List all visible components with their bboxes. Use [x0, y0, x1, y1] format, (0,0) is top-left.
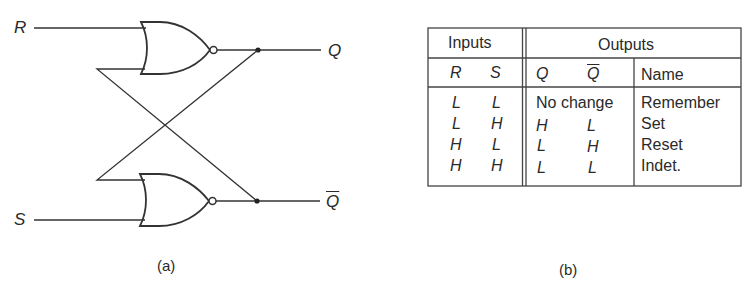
table-header-inputs: Inputs [448, 35, 492, 51]
table-row-1-q: No change [536, 95, 613, 111]
table-col-r: R [450, 65, 462, 81]
table-row-3-s: L [492, 137, 501, 153]
table-row-4-r: H [450, 158, 462, 174]
table-row-1-name: Remember [641, 95, 720, 111]
top-nor-gate [141, 22, 210, 74]
nor-latch-circuit [34, 22, 321, 226]
r-input-label: R [14, 19, 26, 36]
table-row-2-s: H [491, 116, 503, 132]
s-input-label: S [14, 211, 25, 228]
table-row-4-qbar: L [588, 160, 597, 176]
table-row-4-s: H [491, 158, 503, 174]
figure-a-caption: (a) [157, 258, 175, 273]
table-row-3-qbar: H [587, 139, 599, 155]
qbar-junction-dot [254, 198, 259, 203]
table-row-2-q: H [536, 118, 548, 134]
table-row-2-qbar: L [587, 118, 596, 134]
table-row-4-name: Indet. [641, 158, 681, 174]
table-row-1-s: L [492, 95, 501, 111]
table-row-3-r: H [450, 137, 462, 153]
table-row-2-r: L [452, 116, 461, 132]
table-col-qbar: Q [587, 66, 599, 82]
figure-b-caption: (b) [559, 262, 577, 277]
table-col-name: Name [641, 67, 684, 83]
table-row-2-name: Set [641, 116, 665, 132]
top-nor-bubble [210, 47, 217, 54]
table-col-q: Q [536, 66, 548, 82]
q-output-label: Q [328, 42, 341, 59]
table-row-3-name: Reset [641, 137, 683, 153]
table-col-s: S [490, 65, 501, 81]
table-row-1-r: L [452, 95, 461, 111]
table-row-4-q: L [537, 160, 546, 176]
table-header-outputs: Outputs [598, 37, 654, 53]
table-row-3-q: L [537, 138, 546, 154]
top-feedback-wire [97, 69, 257, 201]
bottom-nor-bubble [209, 198, 216, 205]
qbar-output-label: Q [326, 193, 339, 210]
bottom-nor-gate [140, 174, 209, 226]
